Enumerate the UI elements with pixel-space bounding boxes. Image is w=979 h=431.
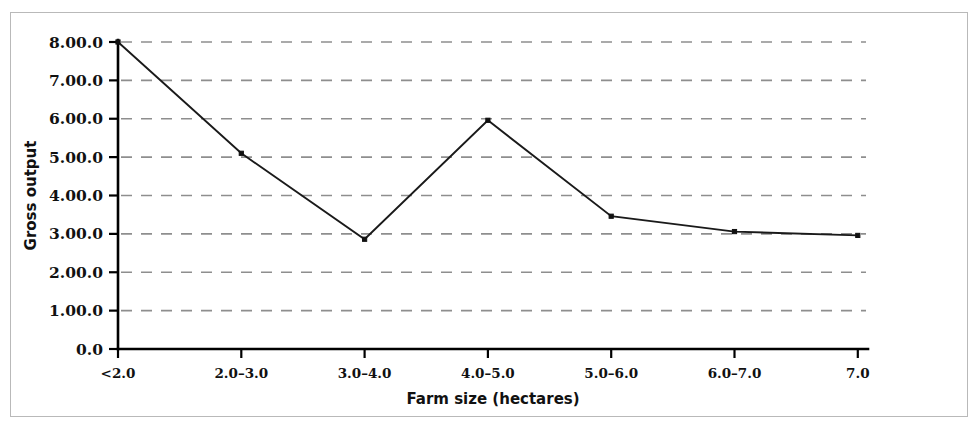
data-point-marker [239,151,243,155]
chart-figure: 0.01.00.02.00.03.00.04.00.05.00.06.00.07… [0,0,979,431]
y-tick-label: 2.00.0 [49,263,103,282]
line-chart-plot: 0.01.00.02.00.03.00.04.00.05.00.06.00.07… [0,0,979,431]
y-axis-title: Gross output [22,141,40,251]
x-tick-label: 6.0–7.0 [708,365,762,381]
y-tick-label: 3.00.0 [49,224,103,243]
gridlines-group [121,42,866,311]
x-tick-label: 4.0–5.0 [461,365,515,381]
data-series-line [118,42,858,239]
x-tick-label: 5.0–6.0 [584,365,638,381]
y-axis-ticks [109,42,118,349]
x-tick-label: 7.0 [846,365,870,381]
y-tick-label: 6.00.0 [49,109,103,128]
x-axis-ticks [118,349,858,358]
x-tick-label: <2.0 [101,365,136,381]
x-tick-label: 3.0–4.0 [338,365,392,381]
data-point-marker [486,118,490,122]
y-tick-label: 8.00.0 [49,33,103,52]
data-point-marker [116,40,120,44]
x-axis-tick-labels: <2.02.0–3.03.0–4.04.0–5.05.0–6.06.0–7.07… [101,365,870,381]
y-axis-tick-labels: 0.01.00.02.00.03.00.04.00.05.00.06.00.07… [49,33,103,359]
data-point-marker [363,237,367,241]
y-tick-label: 1.00.0 [49,301,103,320]
data-point-marker [609,214,613,218]
y-tick-label: 4.00.0 [49,186,103,205]
y-tick-label: 5.00.0 [49,148,103,167]
y-tick-label: 7.00.0 [49,71,103,90]
data-point-marker [856,233,860,237]
data-point-marker [732,229,736,233]
x-tick-label: 2.0–3.0 [214,365,268,381]
x-axis-title: Farm size (hectares) [406,390,579,408]
y-tick-label: 0.0 [76,340,103,359]
